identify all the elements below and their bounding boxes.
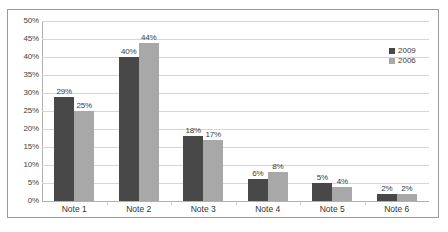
bar-value-label: 2%: [401, 185, 412, 193]
bar-value-label: 29%: [57, 88, 72, 96]
bar[interactable]: 17%: [203, 140, 223, 201]
bar-value-label: 18%: [186, 127, 201, 135]
y-tick-label: 10%: [24, 161, 39, 169]
bar-group: 5%4%: [300, 21, 365, 201]
y-tick-label: 20%: [24, 125, 39, 133]
bar-group: 18%17%: [171, 21, 236, 201]
plot-area: 29%25%40%44%18%17%6%8%5%4%2%2%: [42, 21, 429, 201]
x-tick-label: Note 3: [171, 205, 236, 214]
legend-label: 2006: [398, 57, 416, 65]
x-tick-mark: [300, 201, 301, 205]
y-tick-label: 25%: [24, 107, 39, 115]
y-tick-label: 45%: [24, 35, 39, 43]
legend-swatch-icon: [389, 48, 395, 54]
bar-value-label: 8%: [272, 163, 283, 171]
y-tick-label: 35%: [24, 71, 39, 79]
bars-row: 5%4%: [300, 21, 365, 201]
x-tick-mark: [236, 201, 237, 205]
legend-item[interactable]: 2006: [389, 56, 416, 65]
y-tick-label: 30%: [24, 89, 39, 97]
x-tick-label: Note 1: [42, 205, 107, 214]
bar-value-label: 6%: [252, 170, 263, 178]
x-tick-label: Note 6: [365, 205, 430, 214]
bars-row: 29%25%: [42, 21, 107, 201]
bar-value-label: 44%: [141, 34, 156, 42]
bar[interactable]: 18%: [183, 136, 203, 201]
legend-item[interactable]: 2009: [389, 46, 416, 55]
bars-row: 40%44%: [107, 21, 172, 201]
bar-group: 29%25%: [42, 21, 107, 201]
x-axis-labels: Note 1Note 2Note 3Note 4Note 5Note 6: [42, 205, 429, 221]
bar[interactable]: 44%: [139, 43, 159, 201]
y-tick-label: 5%: [28, 179, 39, 187]
x-tick-mark: [107, 201, 108, 205]
bar-group: 40%44%: [107, 21, 172, 201]
bar-group: 6%8%: [236, 21, 301, 201]
bar[interactable]: 40%: [119, 57, 139, 201]
bar-value-label: 4%: [337, 178, 348, 186]
x-tick-label: Note 2: [107, 205, 172, 214]
bar-value-label: 2%: [381, 185, 392, 193]
y-tick-label: 50%: [24, 17, 39, 25]
legend-label: 2009: [398, 47, 416, 55]
bar[interactable]: 29%: [54, 97, 74, 201]
bar[interactable]: 2%: [397, 194, 417, 201]
y-axis-labels: 50%45%40%35%30%25%20%15%10%5%0%: [8, 21, 39, 201]
y-tick-label: 15%: [24, 143, 39, 151]
bar[interactable]: 5%: [312, 183, 332, 201]
bars-row: 18%17%: [171, 21, 236, 201]
y-tick-label: 0%: [28, 197, 39, 205]
bar-value-label: 17%: [206, 131, 221, 139]
bar[interactable]: 4%: [332, 187, 352, 201]
x-tick-label: Note 4: [236, 205, 301, 214]
chart-legend: 20092006: [389, 46, 416, 66]
bar-value-label: 40%: [121, 48, 136, 56]
bars-row: 6%8%: [236, 21, 301, 201]
x-tick-mark: [365, 201, 366, 205]
legend-swatch-icon: [389, 58, 395, 64]
chart-frame: 50%45%40%35%30%25%20%15%10%5%0% 29%25%40…: [7, 9, 439, 218]
bar[interactable]: 25%: [74, 111, 94, 201]
bar-value-label: 5%: [317, 174, 328, 182]
x-tick-label: Note 5: [300, 205, 365, 214]
bar[interactable]: 2%: [377, 194, 397, 201]
y-tick-label: 40%: [24, 53, 39, 61]
bar[interactable]: 8%: [268, 172, 288, 201]
x-tick-mark: [171, 201, 172, 205]
bar-value-label: 25%: [77, 102, 92, 110]
bar[interactable]: 6%: [248, 179, 268, 201]
